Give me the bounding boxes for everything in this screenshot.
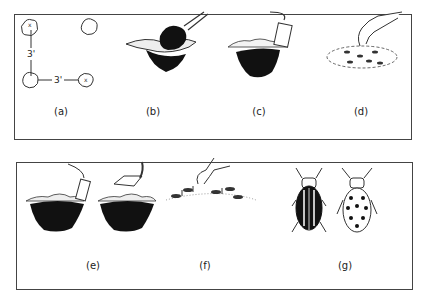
seed-sowing-illustration [320,0,420,140]
filling-hole-illustration [220,0,320,140]
figure-d-sowing [320,0,420,140]
label-c: (c) [244,106,274,117]
dimension-horizontal: 3' [54,75,62,85]
figure-a-layout-diagram: x x 3' 3' [0,0,110,140]
trowel-digging-illustration [110,0,220,140]
label-b: (b) [138,106,168,117]
svg-text:x: x [84,76,88,83]
label-g: (g) [330,260,360,271]
svg-text:x: x [28,21,32,28]
spotted-beetle [337,168,377,232]
dimension-vertical: 3' [27,49,35,59]
label-e: (e) [78,260,108,271]
label-d: (d) [346,106,376,117]
hill-spacing-diagram: x x 3' 3' [0,0,110,140]
label-f: (f) [190,260,220,271]
striped-beetle [292,168,326,232]
label-a: (a) [46,106,76,117]
figure-f-thinning [160,160,280,290]
figure-c-filling [220,0,320,140]
thinning-seedlings-illustration [160,160,280,290]
figure-b-digging [110,0,220,140]
